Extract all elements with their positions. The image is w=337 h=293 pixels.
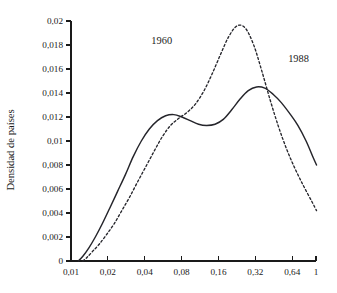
y-axis: 00,0020,0040,0060,0080,010,0120,0140,016…: [42, 16, 71, 266]
y-tick-label: 0,002: [42, 232, 63, 242]
x-tick-label: 0,64: [284, 267, 300, 277]
x-axis: 0,010,020,040,080,160,320,641: [63, 256, 319, 277]
series-labels: 19601988: [151, 35, 309, 64]
x-tick-label: 0,02: [100, 267, 116, 277]
y-tick-label: 0,014: [42, 88, 63, 98]
y-tick-label: 0,016: [42, 64, 63, 74]
x-tick-label: 0,04: [137, 267, 153, 277]
y-tick-label: 0,01: [47, 136, 63, 146]
chart-plot-area: 00,0020,0040,0060,0080,010,0120,0140,016…: [0, 0, 337, 293]
series-label-1988: 1988: [288, 53, 309, 64]
y-tick-label: 0,008: [42, 160, 63, 170]
y-tick-label: 0,018: [42, 40, 63, 50]
series-line-1988: [78, 87, 316, 261]
series-group: [78, 25, 316, 261]
y-tick-label: 0,012: [42, 112, 63, 122]
y-tick-label: 0,006: [42, 184, 63, 194]
series-line-1960: [83, 25, 317, 261]
x-tick-label: 0,08: [174, 267, 190, 277]
y-tick-label: 0,02: [47, 16, 63, 26]
y-tick-label: 0,004: [42, 208, 63, 218]
x-tick-label: 0,32: [247, 267, 263, 277]
density-chart: 00,0020,0040,0060,0080,010,0120,0140,016…: [0, 0, 337, 293]
x-tick-label: 0,01: [63, 267, 79, 277]
x-tick-label: 1: [314, 267, 319, 277]
series-label-1960: 1960: [151, 35, 172, 46]
y-axis-title: Densidad de países: [5, 109, 16, 190]
y-tick-label: 0: [58, 256, 63, 266]
x-tick-label: 0,16: [210, 267, 226, 277]
